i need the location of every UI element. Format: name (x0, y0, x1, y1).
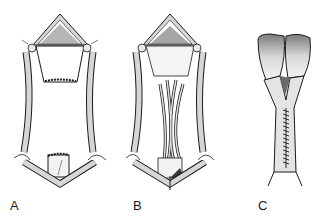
panel-b-label: B (133, 198, 142, 213)
stay-suture-icon (193, 44, 201, 52)
panel-b (110, 0, 225, 217)
panel-c (250, 0, 319, 217)
panel-b-illustration (110, 0, 225, 217)
panel-a (0, 0, 115, 217)
stay-suture-icon (28, 44, 36, 52)
panel-c-label: C (258, 198, 267, 213)
stay-suture-icon (83, 44, 91, 52)
stay-suture-icon (138, 44, 146, 52)
panel-a-illustration (0, 0, 115, 217)
panel-c-illustration (250, 0, 319, 217)
panel-a-label: A (10, 198, 19, 213)
